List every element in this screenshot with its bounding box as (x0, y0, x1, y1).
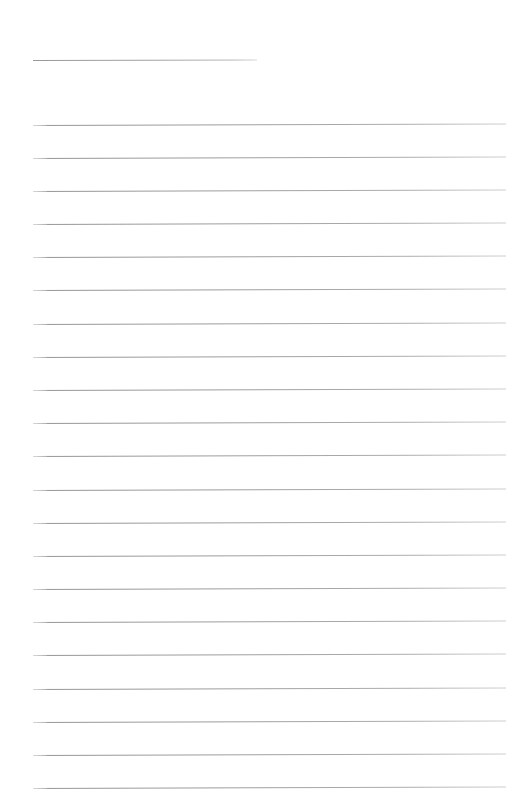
writing-lines-group (0, 0, 529, 812)
writing-line (33, 489, 506, 491)
note-page (0, 0, 529, 812)
writing-line (33, 223, 506, 225)
writing-line (33, 621, 506, 623)
writing-line (33, 721, 506, 723)
writing-line (33, 522, 506, 524)
writing-line (33, 256, 506, 258)
writing-line (33, 389, 506, 391)
writing-line (33, 455, 506, 457)
writing-line (33, 688, 506, 690)
writing-line (33, 654, 506, 656)
writing-line (33, 422, 506, 424)
writing-line (33, 787, 506, 789)
writing-line (33, 323, 506, 325)
writing-line (33, 555, 506, 557)
writing-line (33, 356, 506, 358)
writing-line (33, 157, 506, 159)
writing-line (33, 289, 506, 291)
writing-line (33, 190, 506, 192)
writing-line (33, 588, 506, 590)
writing-line (33, 124, 506, 126)
writing-line (33, 754, 506, 756)
